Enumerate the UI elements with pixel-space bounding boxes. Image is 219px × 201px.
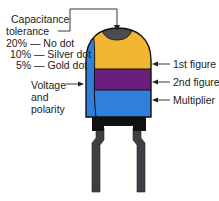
- capacitor-body: [80, 20, 160, 120]
- capacitor-leads: [92, 128, 145, 192]
- voltage-label-3: polarity: [31, 103, 65, 115]
- tolerance-heading: Capacitance: [11, 13, 69, 25]
- label-2nd-figure: 2nd figure: [173, 76, 219, 88]
- voltage-label: Voltage: [31, 79, 66, 91]
- voltage-label-2: and: [31, 91, 49, 103]
- label-multiplier: Multiplier: [173, 94, 215, 106]
- tolerance-heading-2: tolerance: [6, 25, 49, 37]
- tolerance-row-5: 5% — Gold dot: [16, 59, 87, 71]
- label-1st-figure: 1st figure: [173, 58, 216, 70]
